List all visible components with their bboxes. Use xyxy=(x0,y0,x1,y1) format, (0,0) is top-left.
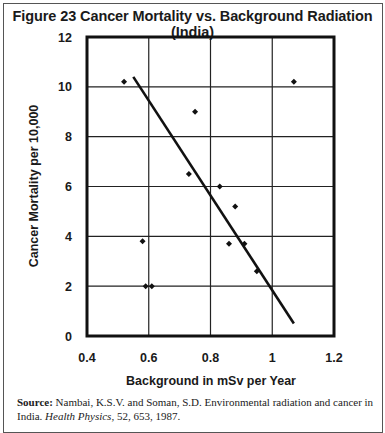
data-point xyxy=(143,283,149,289)
y-tick-label: 0 xyxy=(65,330,72,344)
source-text-2: , 52, 653, 1987. xyxy=(111,410,180,422)
data-point xyxy=(186,171,192,177)
y-tick-label: 6 xyxy=(65,180,72,194)
x-tick-label: 1 xyxy=(269,351,276,365)
x-axis-label: Background in mSv per Year xyxy=(126,374,296,388)
source-journal: Health Physics xyxy=(45,410,111,422)
data-point xyxy=(291,79,297,85)
data-points xyxy=(121,79,297,289)
data-point xyxy=(121,79,127,85)
x-tick-label: 0.4 xyxy=(78,351,95,365)
source-citation: Source: Nambai, K.S.V. and Soman, S.D. E… xyxy=(17,395,377,423)
data-point xyxy=(232,203,238,209)
data-point xyxy=(140,238,146,244)
data-point xyxy=(149,283,155,289)
y-tick-label: 8 xyxy=(65,130,72,144)
y-tick-label: 2 xyxy=(65,280,72,294)
x-tick-label: 0.6 xyxy=(140,351,157,365)
x-tick-label: 1.2 xyxy=(325,351,342,365)
x-tick-label: 0.8 xyxy=(202,351,219,365)
data-point xyxy=(217,184,223,190)
y-tick-label: 4 xyxy=(65,230,72,244)
y-tick-label: 10 xyxy=(58,80,72,94)
y-axis-label: Cancer Mortality per 10,000 xyxy=(27,105,41,268)
source-label: Source: xyxy=(17,396,53,408)
y-axis-ticks: 024681012 xyxy=(58,31,72,344)
data-point xyxy=(192,109,198,115)
y-tick-label: 12 xyxy=(58,31,72,45)
data-point xyxy=(226,241,232,247)
x-axis-ticks: 0.40.60.811.2 xyxy=(78,351,342,365)
